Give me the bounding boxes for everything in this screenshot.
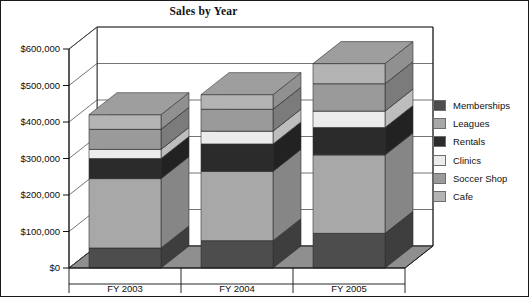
legend-item[interactable]: Leagues <box>433 118 510 129</box>
y-axis-tick-label: $400,000 <box>20 116 60 127</box>
legend-swatch-icon <box>433 191 446 202</box>
y-axis-tick-label: $500,000 <box>20 80 60 91</box>
chart-frame: Sales by Year $0$100,000$200,000$300,000… <box>0 0 529 297</box>
legend-swatch-icon <box>433 155 446 166</box>
x-axis-category-label: FY 2005 <box>331 283 367 294</box>
y-axis-tick-label: $0 <box>49 262 60 273</box>
y-axis-tick-label: $600,000 <box>20 43 60 54</box>
legend-swatch-icon <box>433 136 446 147</box>
legend-label: Cafe <box>453 191 473 202</box>
x-axis-category-label: FY 2004 <box>219 283 255 294</box>
y-axis-tick-label: $200,000 <box>20 189 60 200</box>
x-axis-category-label: FY 2003 <box>107 283 143 294</box>
legend-label: Soccer Shop <box>453 173 507 184</box>
legend-swatch-icon <box>433 118 446 129</box>
legend-label: Clinics <box>453 155 481 166</box>
legend-label: Rentals <box>453 136 485 147</box>
legend-item[interactable]: Clinics <box>433 155 510 166</box>
y-axis-tick-label: $300,000 <box>20 153 60 164</box>
legend-label: Memberships <box>453 100 510 111</box>
legend-item[interactable]: Cafe <box>433 191 510 202</box>
legend-item[interactable]: Rentals <box>433 136 510 147</box>
legend-label: Leagues <box>453 118 489 129</box>
legend-swatch-icon <box>433 173 446 184</box>
legend-item[interactable]: Soccer Shop <box>433 173 510 184</box>
legend-swatch-icon <box>433 100 446 111</box>
legend-item[interactable]: Memberships <box>433 100 510 111</box>
chart-legend: MembershipsLeaguesRentalsClinicsSoccer S… <box>433 100 510 202</box>
y-axis-tick-label: $100,000 <box>20 226 60 237</box>
